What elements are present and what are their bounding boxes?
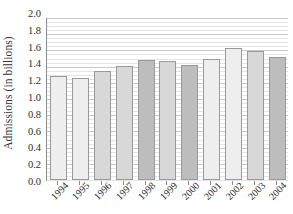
bar-2000[interactable] — [181, 65, 198, 180]
x-axis-tick-labels: 1994 1995 1996 1997 1998 1999 2000 2001 … — [46, 185, 287, 214]
y-tick-label: 0.0 — [28, 177, 41, 188]
y-tick-label: 0.8 — [28, 110, 41, 121]
y-tick-label: 2.0 — [28, 9, 41, 20]
y-axis-title: Admissions (in billions) — [0, 0, 16, 186]
y-tick-label: 0.6 — [28, 126, 41, 137]
bar-2003[interactable] — [247, 51, 264, 180]
y-tick-label: 1.8 — [28, 26, 41, 37]
plot-area — [46, 18, 288, 181]
y-axis-title-text: Admissions (in billions) — [2, 36, 14, 150]
bar-2001[interactable] — [203, 59, 220, 180]
bar-1994[interactable] — [50, 76, 67, 180]
x-tick-label-slot: 1996 — [93, 185, 110, 214]
x-tick-label-slot: 2002 — [224, 185, 241, 214]
bar-1997[interactable] — [116, 66, 133, 180]
bar-series — [47, 18, 288, 180]
y-axis-tick-labels: 2.0 1.8 1.6 1.4 1.2 1.0 0.8 0.6 0.4 0.2 … — [16, 14, 44, 182]
bar-1998[interactable] — [138, 60, 155, 180]
y-tick-label: 1.0 — [28, 93, 41, 104]
x-tick-label-slot: 1997 — [115, 185, 132, 214]
x-tick-label-slot: 2000 — [180, 185, 197, 214]
x-tick-label-slot: 1998 — [137, 185, 154, 214]
bar-1996[interactable] — [94, 71, 111, 180]
bar-2002[interactable] — [225, 48, 242, 180]
y-tick-label: 0.2 — [28, 160, 41, 171]
y-tick-label: 1.2 — [28, 76, 41, 87]
x-tick-label-slot: 2001 — [202, 185, 219, 214]
y-tick-label: 0.4 — [28, 143, 41, 154]
y-tick-label: 1.6 — [28, 42, 41, 53]
x-tick-label-slot: 1994 — [49, 185, 66, 214]
y-tick-label: 1.4 — [28, 59, 41, 70]
bar-2004[interactable] — [269, 57, 286, 180]
x-tick-label-slot: 2004 — [268, 185, 285, 214]
bar-1999[interactable] — [159, 61, 176, 180]
bar-chart-figure: Admissions (in billions) 2.0 1.8 1.6 1.4… — [0, 0, 293, 214]
x-tick-label-slot: 1999 — [158, 185, 175, 214]
x-tick-label-slot: 1995 — [71, 185, 88, 214]
bar-1995[interactable] — [72, 78, 89, 180]
x-tick-label-slot: 2003 — [246, 185, 263, 214]
